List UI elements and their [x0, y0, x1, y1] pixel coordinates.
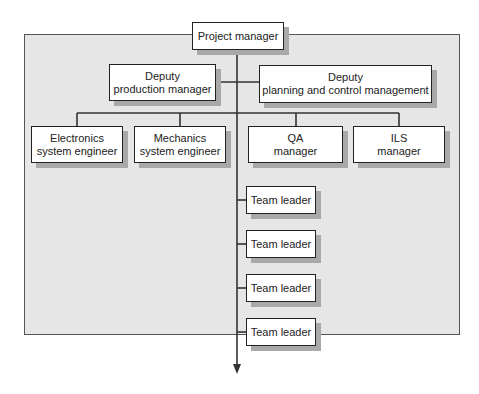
node-label-line1: Deputy — [328, 71, 363, 84]
node-label-line1: Mechanics — [154, 132, 207, 145]
node-deputy-planning-control: Deputy planning and control management — [259, 65, 432, 103]
node-team-leader-4: Team leader — [246, 318, 316, 346]
node-team-leader-1: Team leader — [246, 186, 316, 214]
node-label-line2: system engineer — [140, 145, 221, 158]
node-label-line2: manager — [377, 145, 420, 158]
node-label: Team leader — [251, 282, 312, 295]
node-label-line2: planning and control management — [262, 84, 428, 97]
node-label-line1: Deputy — [145, 70, 180, 83]
node-label-line2: system engineer — [37, 145, 118, 158]
node-label-line2: manager — [274, 145, 317, 158]
node-label: Team leader — [251, 326, 312, 339]
node-label: Team leader — [251, 194, 312, 207]
node-label-line1: QA — [288, 132, 304, 145]
node-deputy-production-manager: Deputy production manager — [109, 64, 216, 101]
node-electronics-system-engineer: Electronics system engineer — [31, 126, 123, 163]
node-label-line1: ILS — [391, 132, 408, 145]
node-label: Team leader — [251, 238, 312, 251]
node-qa-manager: QA manager — [248, 126, 343, 163]
node-ils-manager: ILS manager — [353, 126, 445, 163]
connector-lines — [0, 0, 479, 394]
node-mechanics-system-engineer: Mechanics system engineer — [134, 126, 226, 163]
node-project-manager: Project manager — [192, 22, 284, 50]
node-label: Project manager — [198, 30, 279, 43]
node-team-leader-2: Team leader — [246, 230, 316, 258]
node-label-line2: production manager — [114, 83, 212, 96]
node-label-line1: Electronics — [50, 132, 104, 145]
arrow-down-icon — [233, 364, 241, 374]
node-team-leader-3: Team leader — [246, 274, 316, 302]
